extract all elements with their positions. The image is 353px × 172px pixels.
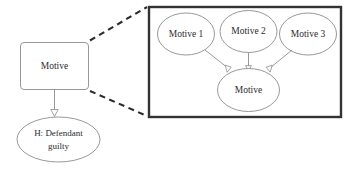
motive-aggregate-label: Motive bbox=[235, 85, 262, 95]
node-motive-3[interactable]: Motive 3 bbox=[280, 13, 337, 55]
motive-box-label: Motive bbox=[41, 61, 68, 71]
arrowhead-open-triangle-hypothesis bbox=[51, 110, 58, 117]
node-motive-box[interactable]: Motive bbox=[21, 43, 89, 90]
hypothesis-label-line2: guilty bbox=[48, 141, 70, 151]
motive-3-label: Motive 3 bbox=[291, 29, 326, 39]
diagram-canvas: Motive H: Defendant guilty Motive 1 Moti… bbox=[0, 0, 353, 172]
zoom-connector-top bbox=[90, 7, 147, 41]
hypothesis-label-line1: H: Defendant bbox=[34, 128, 83, 138]
motive-1-label: Motive 1 bbox=[169, 29, 204, 39]
node-motive-1[interactable]: Motive 1 bbox=[158, 13, 215, 55]
hypothesis-ellipse-shape bbox=[17, 117, 100, 162]
diagram-svg: Motive H: Defendant guilty Motive 1 Moti… bbox=[0, 0, 353, 172]
edge-motive-to-hypothesis bbox=[51, 90, 58, 117]
node-motive-aggregate[interactable]: Motive bbox=[218, 69, 280, 112]
node-motive-2[interactable]: Motive 2 bbox=[220, 11, 277, 53]
zoom-connector-bottom bbox=[90, 91, 147, 116]
motive-2-label: Motive 2 bbox=[231, 26, 266, 36]
node-hypothesis-ellipse[interactable]: H: Defendant guilty bbox=[17, 117, 100, 162]
